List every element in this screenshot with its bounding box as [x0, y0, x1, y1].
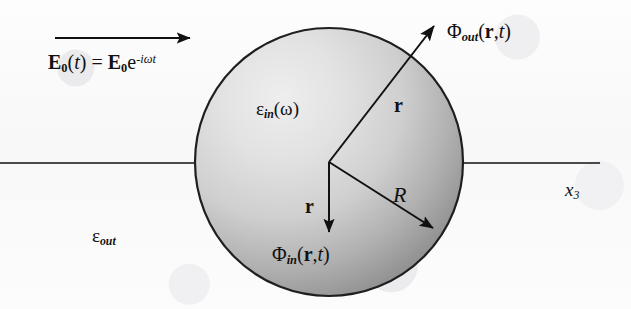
r-vector-label-upper: r	[394, 95, 403, 115]
incident-field-equation: E0(t) = E0e-iωt	[48, 52, 156, 75]
interior-permittivity-label: εin(ω)	[256, 99, 299, 121]
phi-out-label: Φout(r,t)	[447, 21, 511, 44]
r-vector-label-lower: r	[305, 196, 314, 216]
figure-canvas: E0(t) = E0e-iωt εin(ω) εout Φout(r,t) Φi…	[0, 0, 631, 309]
exterior-permittivity-label: εout	[92, 226, 116, 248]
radius-label: R	[393, 184, 406, 206]
phi-in-label: Φin(r,t)	[272, 244, 330, 267]
x3-axis-label: x3	[565, 180, 579, 202]
